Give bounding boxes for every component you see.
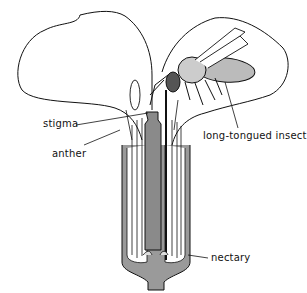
nectary-label: nectary bbox=[211, 252, 250, 263]
anther-left bbox=[130, 80, 140, 110]
insect-label: long-tongued insect bbox=[203, 130, 307, 141]
anther-leader bbox=[84, 130, 120, 145]
flower-diagram bbox=[0, 0, 307, 293]
nectary-leader bbox=[188, 255, 208, 258]
left-petal bbox=[18, 15, 142, 140]
stigma-label: stigma bbox=[43, 118, 78, 129]
style-pistil bbox=[145, 112, 161, 250]
anther-label: anther bbox=[52, 148, 86, 159]
insect-leader bbox=[225, 82, 238, 128]
